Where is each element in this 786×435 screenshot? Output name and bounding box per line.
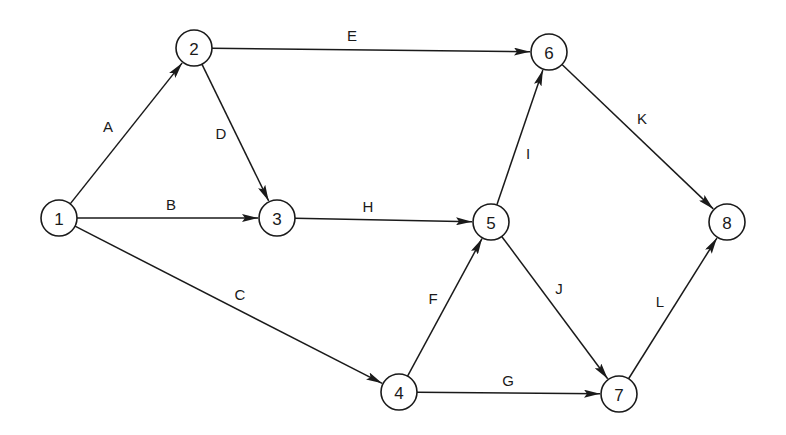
node-label: 3 — [272, 210, 281, 229]
edge-label: G — [502, 372, 514, 389]
edge-label: L — [656, 293, 664, 310]
edge-label: C — [235, 286, 246, 303]
edge-l: L — [629, 238, 717, 379]
node-5: 5 — [473, 204, 509, 240]
edge-j: J — [502, 236, 608, 378]
edge-arrow — [562, 64, 713, 208]
node-4: 4 — [381, 374, 417, 410]
edge-arrow — [75, 226, 382, 383]
edge-label: A — [103, 118, 113, 135]
edge-arrow — [295, 218, 472, 221]
edge-b: B — [77, 196, 258, 219]
edge-arrow — [497, 70, 543, 205]
node-7: 7 — [601, 376, 637, 412]
edge-i: I — [497, 70, 543, 205]
node-label: 8 — [722, 214, 731, 233]
edge-h: H — [295, 198, 472, 222]
edge-arrow — [212, 48, 530, 52]
node-1: 1 — [41, 200, 77, 236]
edges-layer: ABCDEHFGIJKL — [70, 27, 717, 394]
edge-label: F — [428, 290, 437, 307]
edge-label: B — [166, 196, 176, 213]
edge-label: D — [216, 125, 227, 142]
edge-k: K — [562, 64, 713, 208]
edge-label: E — [347, 27, 357, 44]
network-diagram: ABCDEHFGIJKL 12345678 — [0, 0, 786, 435]
node-label: 6 — [544, 44, 553, 63]
node-label: 4 — [394, 384, 403, 403]
edge-e: E — [212, 27, 530, 52]
nodes-layer: 12345678 — [41, 30, 745, 412]
node-label: 1 — [54, 210, 63, 229]
node-8: 8 — [709, 204, 745, 240]
edge-g: G — [417, 372, 600, 394]
edge-arrow — [502, 236, 608, 378]
edge-label: H — [363, 198, 374, 215]
edge-arrow — [408, 239, 482, 376]
edge-arrow — [417, 392, 600, 394]
edge-label: K — [637, 110, 647, 127]
node-2: 2 — [176, 30, 212, 66]
edge-arrow — [70, 63, 182, 204]
edge-d: D — [202, 64, 269, 201]
node-label: 7 — [614, 386, 623, 405]
node-3: 3 — [259, 200, 295, 236]
edge-label: I — [526, 145, 530, 162]
edge-a: A — [70, 63, 182, 204]
edge-c: C — [75, 226, 382, 383]
edge-f: F — [408, 239, 482, 376]
node-label: 5 — [486, 214, 495, 233]
node-label: 2 — [189, 40, 198, 59]
node-6: 6 — [531, 34, 567, 70]
edge-label: J — [555, 280, 563, 297]
edge-arrow — [202, 64, 269, 201]
edge-arrow — [629, 238, 717, 379]
